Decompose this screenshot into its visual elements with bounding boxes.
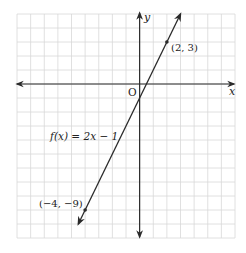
coordinate-plane: y x O (2, 3) (−4, −9) f(x) = 2x − 1 — [0, 0, 246, 253]
x-axis-label: x — [229, 85, 236, 98]
origin-label: O — [128, 86, 137, 98]
point-neg4-neg9 — [83, 208, 87, 212]
point-2-3 — [165, 40, 169, 44]
function-line — [78, 14, 180, 224]
function-label: f(x) = 2x − 1 — [49, 130, 118, 142]
point-b-label: (−4, −9) — [39, 198, 83, 209]
y-axis-label: y — [143, 11, 151, 24]
point-a-label: (2, 3) — [171, 42, 198, 53]
